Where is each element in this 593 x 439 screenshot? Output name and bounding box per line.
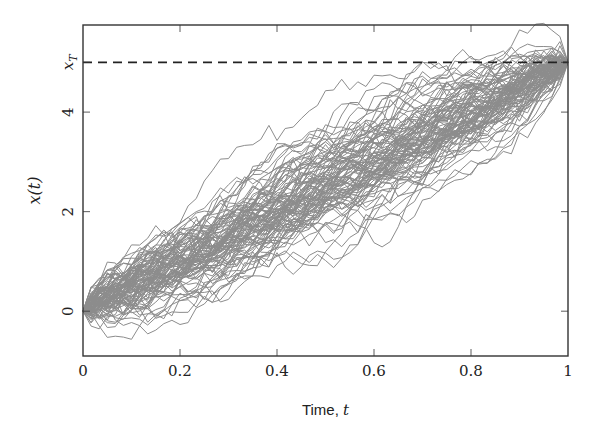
- chart: 00.20.40.60.81 024xT x(t) Time, t: [0, 0, 593, 439]
- x-tick-label: 0: [78, 362, 88, 380]
- y-tick-label: 2: [59, 207, 77, 217]
- x-tick-label: 0.6: [362, 362, 386, 380]
- y-tick-label: 4: [59, 107, 77, 117]
- x-tick-labels: 00.20.40.60.81: [78, 362, 573, 380]
- x-tick-label: 1: [563, 362, 573, 380]
- x-axis-label: Time, t: [302, 401, 350, 419]
- y-axis-label: x(t): [25, 177, 44, 205]
- y-tick-labels: 024xT: [59, 53, 80, 316]
- x-axis-label-var: t: [343, 401, 350, 419]
- x-axis-label-text: Time,: [302, 401, 343, 418]
- y-tick-label: 0: [59, 306, 77, 316]
- x-tick-label: 0.4: [265, 362, 289, 380]
- sample-paths: [83, 23, 568, 339]
- y-tick-label: xT: [59, 53, 80, 70]
- x-tick-label: 0.2: [168, 362, 192, 380]
- x-tick-label: 0.8: [459, 362, 483, 380]
